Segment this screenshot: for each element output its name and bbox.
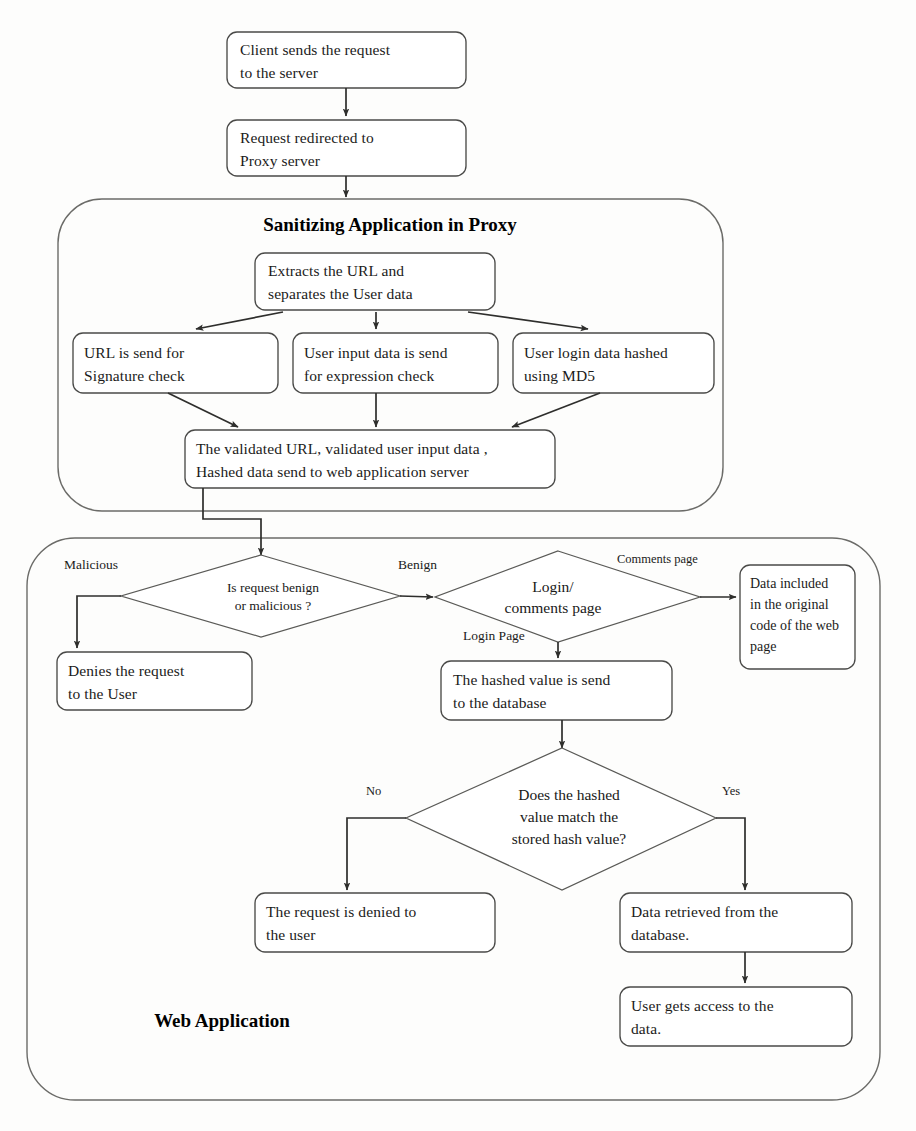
edge-label-benign: Benign [398,557,437,572]
node-user-login-md5-line1: User login data hashed [524,344,668,361]
node-user-access-line2: data. [631,1020,661,1037]
node-extracts-url-line2: separates the User data [268,285,413,302]
edge-yes-to-data-retrieved [716,818,745,890]
node-url-signature-check-line2: Signature check [84,367,185,384]
node-client-request-line1: Client sends the request [240,41,391,58]
node-request-redirected-line2: Proxy server [240,152,321,169]
edge-label-malicious: Malicious [64,557,118,572]
node-hashed-value-db-line2: to the database [453,694,547,711]
container-proxy-title: Sanitizing Application in Proxy [263,214,517,235]
edge-label-no: No [366,784,381,798]
edge-validated-to-decision [203,488,261,555]
edge-benign-to-login-decision [400,596,433,597]
node-data-included-line4: page [750,639,776,654]
node-url-signature-check [73,333,278,393]
flowchart-canvas: Sanitizing Application in Proxy Web Appl… [0,0,916,1131]
node-data-included-line1: Data included [750,576,828,591]
node-request-denied-line1: The request is denied to [266,903,417,920]
edge-malicious-to-denies [77,596,121,648]
node-denies-request-line1: Denies the request [68,662,185,679]
node-user-login-md5 [513,333,714,393]
decision-benign-or-malicious [121,555,400,637]
decision-hash-match-line1: Does the hashed [518,786,620,803]
node-request-redirected-line1: Request redirected to [240,129,374,146]
edge-md5-to-validated [512,393,600,427]
node-user-input-expression-check-line1: User input data is send [304,344,448,361]
node-request-denied [255,893,495,952]
node-request-denied-line2: the user [266,926,316,943]
node-url-signature-check-line1: URL is send for [84,344,185,361]
edge-no-to-request-denied [347,818,406,890]
node-data-retrieved [620,893,852,952]
node-validated-send-line2: Hashed data send to web application serv… [196,463,470,480]
decision-benign-or-malicious-line2: or malicious ? [235,598,311,613]
node-data-included-line2: in the original [750,597,829,612]
container-webapp-title: Web Application [154,1010,290,1031]
node-hashed-value-db-line1: The hashed value is send [453,671,611,688]
decision-hash-match-line2: value match the [520,808,618,825]
edge-extract-to-signature [196,312,283,329]
edge-signature-to-validated [168,393,238,427]
node-data-retrieved-line1: Data retrieved from the [631,903,778,920]
edge-label-yes: Yes [722,784,740,798]
node-data-retrieved-line2: database. [631,926,689,943]
decision-hash-match-line3: stored hash value? [512,830,627,847]
decision-login-or-comments-line1: Login/ [532,578,574,595]
edge-label-login-page: Login Page [463,628,525,643]
decision-benign-or-malicious-line1: Is request benign [227,580,319,595]
node-hashed-value-db [441,661,672,720]
edge-extract-to-md5 [468,312,588,329]
node-extracts-url-line1: Extracts the URL and [268,262,404,279]
node-user-access [620,987,852,1046]
node-denies-request-line2: to the User [68,685,138,702]
node-user-input-expression-check-line2: for expression check [304,367,434,384]
node-user-access-line1: User gets access to the [631,997,774,1014]
decision-login-or-comments-line2: comments page [505,599,602,616]
node-data-included-line3: code of the web [750,618,839,633]
node-user-login-md5-line2: using MD5 [524,367,595,384]
edge-label-comments-page: Comments page [617,552,698,566]
node-validated-send-line1: The validated URL, validated user input … [196,440,488,457]
node-user-input-expression-check [293,333,498,393]
flowchart-diagram: Sanitizing Application in Proxy Web Appl… [0,0,916,1131]
node-client-request-line2: to the server [240,64,319,81]
